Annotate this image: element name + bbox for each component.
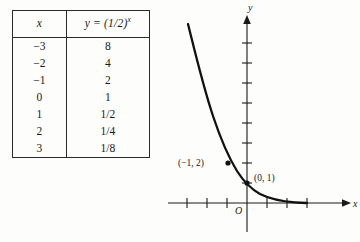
x-axis-label: x — [352, 198, 358, 209]
cell-y: 1/2 — [66, 106, 149, 123]
cell-y: 8 — [66, 38, 149, 56]
cell-y: 1/4 — [66, 123, 149, 140]
table-body: −3 8 −2 4 −1 2 0 1 1 1/2 — [13, 38, 149, 158]
table-row: 2 1/4 — [13, 123, 149, 140]
table-header: x y = (1/2)x — [13, 11, 149, 38]
cell-y: 1/8 — [66, 140, 149, 157]
column-header-y: y = (1/2)x — [66, 11, 149, 38]
point-label-minus1-2: (−1, 2) — [178, 158, 204, 169]
x-axis-arrowhead — [342, 199, 351, 207]
point-label-0-1: (0, 1) — [254, 173, 275, 184]
cell-x: 2 — [13, 123, 66, 140]
y-axis-arrowhead — [243, 15, 251, 24]
coordinate-plane: y x O (−1, 2) (0, 1) — [165, 0, 360, 242]
graph-panel: y x O (−1, 2) (0, 1) y = ( 1 2 ) x — [165, 0, 360, 242]
cell-x: 3 — [13, 140, 66, 157]
cell-x: 0 — [13, 89, 66, 106]
cell-y: 4 — [66, 55, 149, 72]
cell-x: −2 — [13, 55, 66, 72]
cell-x: −3 — [13, 38, 66, 56]
table-row: 3 1/8 — [13, 140, 149, 157]
table-row: −1 2 — [13, 72, 149, 89]
cell-y: 1 — [66, 89, 149, 106]
column-header-y-exponent: x — [127, 15, 131, 24]
column-header-x-label: x — [37, 17, 42, 29]
column-header-y-label: y = (1/2)x — [85, 17, 131, 29]
point-dot-minus1-2 — [225, 160, 230, 165]
origin-label: O — [235, 205, 242, 216]
cell-y: 2 — [66, 72, 149, 89]
x-axis — [168, 199, 351, 207]
cell-x: −1 — [13, 72, 66, 89]
exponential-function-figure: x y = (1/2)x −3 8 −2 4 −1 2 — [0, 0, 360, 242]
point-dot-0-1 — [244, 180, 249, 185]
cell-x: 1 — [13, 106, 66, 123]
table-header-row: x y = (1/2)x — [13, 11, 149, 38]
table-row: 0 1 — [13, 89, 149, 106]
value-table: x y = (1/2)x −3 8 −2 4 −1 2 — [12, 10, 150, 158]
column-header-x: x — [13, 11, 66, 38]
y-axis-label: y — [247, 2, 253, 13]
table-row: 1 1/2 — [13, 106, 149, 123]
table-of-values: x y = (1/2)x −3 8 −2 4 −1 2 — [13, 11, 149, 157]
table-row: −2 4 — [13, 55, 149, 72]
table-row: −3 8 — [13, 38, 149, 56]
